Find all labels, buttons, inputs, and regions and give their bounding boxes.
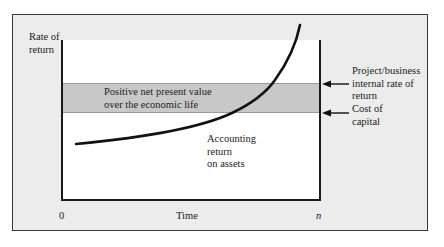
x-tick-start: 0: [59, 210, 64, 223]
cost-of-capital-label: Cost of capital: [352, 103, 383, 128]
irr-arrow-icon: [322, 81, 349, 88]
y-axis-label: Rate of return: [29, 31, 60, 56]
irr-label: Project/business internal rate of return: [352, 65, 420, 103]
x-axis-label: Time: [176, 210, 198, 223]
x-tick-end: n: [316, 210, 321, 223]
band-label: Positive net present value over the econ…: [104, 86, 212, 111]
cost-of-capital-arrow-icon: [322, 110, 349, 117]
curve-label: Accounting return on assets: [207, 133, 256, 171]
accounting-return-curve: [76, 25, 300, 144]
